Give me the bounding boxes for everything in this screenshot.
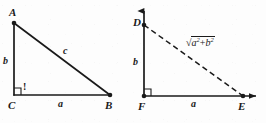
annotation-exclamation-mark: ! xyxy=(23,82,26,92)
radicand: a2+b2 xyxy=(191,36,215,48)
side-label-a-right: a xyxy=(191,99,196,109)
triangle-dfe-group xyxy=(142,11,256,98)
vertex-label-b: B xyxy=(105,100,112,111)
vertex-label-d: D xyxy=(133,17,141,28)
side-label-b-right: b xyxy=(133,57,138,67)
vertex-dot-f xyxy=(142,94,147,99)
vertex-dot-e xyxy=(241,94,246,99)
vertex-dot-a xyxy=(12,21,17,26)
vertex-label-e: E xyxy=(238,101,245,112)
side-label-a-left: a xyxy=(58,99,63,109)
vertex-label-c: C xyxy=(8,100,15,111)
hypotenuse-expression-sqrt-a2-b2: √a2+b2 xyxy=(186,38,215,48)
vertex-label-a: A xyxy=(9,7,16,18)
side-label-b-left: b xyxy=(3,56,8,66)
vertex-dot-d xyxy=(142,23,147,28)
triangle-abc-group xyxy=(12,21,113,98)
right-angle-marker-c xyxy=(14,88,21,95)
radicand-exponent-b: 2 xyxy=(210,36,213,43)
vertex-dot-b xyxy=(108,93,113,98)
side-label-c-left: c xyxy=(63,46,67,56)
segment-side-c xyxy=(14,23,110,95)
vertex-label-f: F xyxy=(138,101,145,112)
geometry-figure: A B C b a c ! D E F b a √a2+b2 xyxy=(0,0,266,123)
